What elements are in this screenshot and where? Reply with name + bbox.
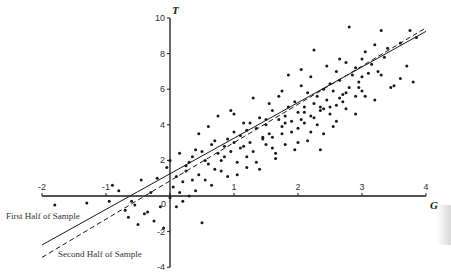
data-point	[351, 73, 354, 76]
data-point	[345, 91, 348, 94]
data-point	[271, 136, 274, 139]
data-point	[287, 73, 290, 76]
data-point	[229, 150, 232, 153]
data-point	[191, 155, 194, 158]
data-point	[175, 205, 178, 208]
data-point	[233, 130, 236, 133]
data-point	[341, 100, 344, 103]
data-point	[255, 161, 258, 164]
data-point	[268, 132, 271, 135]
y-tick-label: 6	[160, 84, 165, 94]
data-point	[265, 118, 268, 121]
data-point	[377, 70, 380, 73]
data-point	[297, 141, 300, 144]
data-point	[197, 132, 200, 135]
data-point	[277, 95, 280, 98]
data-point	[348, 25, 351, 28]
x-tick-label: -1	[102, 182, 110, 192]
edge-shadow	[437, 205, 451, 245]
data-point	[185, 164, 188, 167]
first-half-label: First Half of Sample	[6, 211, 80, 221]
first-half-line	[42, 31, 426, 245]
data-point	[287, 106, 290, 109]
data-point	[220, 170, 223, 173]
data-point	[357, 86, 360, 89]
data-point	[297, 127, 300, 130]
data-point	[239, 146, 242, 149]
data-point	[409, 29, 412, 32]
data-point	[380, 73, 383, 76]
data-point	[361, 75, 364, 78]
data-point	[364, 95, 367, 98]
data-point	[133, 203, 136, 206]
data-point	[188, 195, 191, 198]
data-point	[370, 63, 373, 66]
data-point	[271, 109, 274, 112]
data-point	[341, 93, 344, 96]
data-point	[108, 200, 111, 203]
data-point	[367, 72, 370, 75]
data-point	[345, 61, 348, 64]
data-point	[252, 97, 255, 100]
data-point	[332, 89, 335, 92]
data-point	[242, 145, 245, 148]
data-point	[335, 70, 338, 73]
data-point	[329, 82, 332, 85]
y-tick-label: 10	[155, 13, 165, 23]
data-point	[335, 104, 338, 107]
data-point	[389, 86, 392, 89]
data-point	[290, 120, 293, 123]
data-point	[252, 150, 255, 153]
data-point	[309, 114, 312, 117]
data-points	[53, 25, 418, 229]
data-point	[178, 152, 181, 155]
data-point	[383, 56, 386, 59]
data-point	[399, 41, 402, 44]
data-point	[335, 120, 338, 123]
data-point	[223, 145, 226, 148]
data-point	[210, 143, 213, 146]
data-point	[319, 109, 322, 112]
data-point	[181, 200, 184, 203]
y-tick-label: -4	[157, 262, 165, 272]
data-point	[197, 173, 200, 176]
data-point	[338, 97, 341, 100]
data-point	[162, 227, 165, 230]
data-point	[165, 166, 168, 169]
data-point	[274, 157, 277, 160]
data-point	[245, 166, 248, 169]
data-point	[217, 152, 220, 155]
data-point	[249, 141, 252, 144]
data-point	[239, 134, 242, 137]
data-point	[373, 43, 376, 46]
data-point	[223, 155, 226, 158]
data-point	[309, 130, 312, 133]
data-point	[309, 75, 312, 78]
data-point	[159, 205, 162, 208]
data-point	[281, 132, 284, 135]
data-point	[85, 202, 88, 205]
data-point	[207, 162, 210, 165]
data-point	[265, 123, 268, 126]
data-point	[357, 81, 360, 84]
data-point	[140, 178, 143, 181]
data-point	[194, 189, 197, 192]
data-point	[236, 173, 239, 176]
origin-label: 0	[161, 199, 166, 209]
data-point	[261, 136, 264, 139]
data-point	[226, 175, 229, 178]
data-point	[207, 125, 210, 128]
data-point	[405, 65, 408, 68]
data-point	[284, 122, 287, 125]
data-point	[306, 91, 309, 94]
data-point	[233, 141, 236, 144]
data-point	[325, 98, 328, 101]
data-point	[268, 102, 271, 105]
data-point	[338, 57, 341, 60]
x-tick-label: 2	[295, 182, 300, 192]
data-point	[111, 184, 114, 187]
scatter-chart: -2-112340-4-2246810 T G First Half of Sa…	[0, 0, 451, 277]
data-point	[316, 95, 319, 98]
data-point	[194, 148, 197, 151]
data-point	[242, 122, 245, 125]
